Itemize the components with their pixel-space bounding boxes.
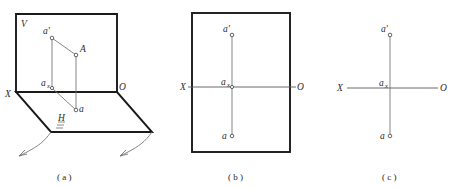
label-a-front-c: a'	[381, 24, 389, 34]
label-a-horiz-c: a	[380, 131, 385, 141]
svg-text:a: a	[221, 77, 226, 87]
point-a-horiz-marker-b	[230, 134, 234, 138]
label-origin-c: O	[440, 83, 447, 93]
label-origin: O	[119, 82, 126, 92]
svg-text:a: a	[41, 78, 46, 88]
ground-line-right	[120, 132, 152, 156]
point-a-horiz-marker-c	[388, 134, 392, 138]
panel-a: V H X O A a' a a x ( a )	[4, 14, 152, 182]
point-ax-marker	[50, 86, 53, 89]
caption-b: ( b )	[228, 172, 243, 182]
frame-outline-b	[192, 13, 290, 152]
ground-line-left	[19, 132, 51, 156]
point-A-marker	[74, 53, 78, 57]
caption-a: ( a )	[57, 172, 72, 182]
svg-text:x: x	[384, 82, 388, 89]
label-x-axis-c: X	[336, 83, 344, 93]
label-point-A: A	[79, 44, 86, 54]
figure-sheet: V H X O A a' a a x ( a ) a' a x a X O	[0, 0, 465, 189]
svg-text:x: x	[46, 82, 50, 89]
point-a-front-marker-c	[388, 33, 392, 37]
point-ax-marker-b	[230, 85, 233, 88]
point-a-horiz-marker	[74, 108, 78, 112]
v-plane-outline	[16, 14, 117, 92]
label-h-plane: H	[57, 113, 66, 123]
label-ax-c: a x	[379, 78, 388, 89]
label-ax-b: a x	[221, 77, 230, 88]
svg-text:a: a	[379, 78, 384, 88]
point-a-front-marker	[50, 36, 54, 40]
panel-b: a' a x a X O ( b )	[179, 13, 304, 182]
label-a-front: a'	[43, 26, 51, 36]
label-x-axis-b: X	[179, 82, 187, 92]
point-a-front-marker-b	[230, 33, 234, 37]
label-x-axis: X	[4, 89, 12, 99]
panel-c: a' a x a X O ( c )	[336, 24, 447, 182]
label-ax: a x	[41, 78, 50, 89]
label-a-horiz-b: a	[222, 131, 227, 141]
label-v-plane: V	[21, 19, 28, 29]
label-origin-b: O	[297, 82, 304, 92]
label-a-horiz: a	[79, 104, 84, 114]
caption-c: ( c )	[382, 172, 397, 182]
h-plane-outline	[16, 92, 152, 132]
label-a-front-b: a'	[223, 24, 231, 34]
line-afront-to-A	[52, 38, 76, 55]
svg-text:x: x	[226, 81, 230, 88]
